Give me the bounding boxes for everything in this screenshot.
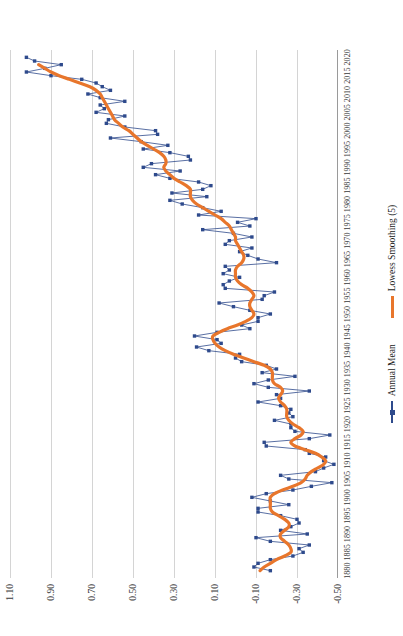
annual-mean-marker xyxy=(256,400,259,403)
x-tick-label: 1990 xyxy=(343,159,352,175)
annual-mean-marker xyxy=(224,243,227,246)
x-tick-label: 1965 xyxy=(343,251,352,267)
annual-mean-marker xyxy=(224,287,227,290)
x-tick-label: 1950 xyxy=(343,306,352,322)
legend-item-lowess: Lowess Smoothing (5) xyxy=(387,205,397,319)
x-tick-label: 2010 xyxy=(343,86,352,102)
annual-mean-marker xyxy=(297,521,300,524)
annual-mean-marker xyxy=(289,426,292,429)
annual-mean-marker xyxy=(25,70,28,73)
x-tick-label: 1960 xyxy=(343,269,352,285)
annual-mean-marker xyxy=(240,360,243,363)
annual-mean-marker xyxy=(209,184,212,187)
lowess-smoothing-line xyxy=(39,65,326,571)
annual-mean-marker xyxy=(252,382,255,385)
annual-mean-marker xyxy=(256,257,259,260)
annual-mean-marker xyxy=(217,301,220,304)
annual-mean-marker xyxy=(219,342,222,345)
legend-item-annual-mean: Annual Mean xyxy=(387,344,397,423)
annual-mean-marker xyxy=(275,367,278,370)
chart-page: 1.100.900.700.500.300.10-0.10-0.30-0.50 … xyxy=(0,0,403,636)
x-tick-label: 1955 xyxy=(343,287,352,303)
annual-mean-marker xyxy=(142,166,145,169)
plot-area: 1.100.900.700.500.300.10-0.10-0.30-0.50 … xyxy=(10,50,338,578)
annual-mean-marker xyxy=(250,496,253,499)
figure: 1.100.900.700.500.300.10-0.10-0.30-0.50 … xyxy=(0,0,403,636)
annual-mean-marker xyxy=(109,136,112,139)
annual-mean-marker xyxy=(267,386,270,389)
x-tick-label: 1935 xyxy=(343,361,352,377)
y-tick-label: 0.30 xyxy=(169,584,179,601)
annual-mean-marker xyxy=(154,173,157,176)
y-tick-label: -0.30 xyxy=(292,584,302,604)
annual-mean-marker xyxy=(170,191,173,194)
annual-mean-marker xyxy=(256,320,259,323)
annual-mean-marker xyxy=(275,393,278,396)
annual-mean-marker xyxy=(197,213,200,216)
annual-mean-marker xyxy=(142,147,145,150)
annual-mean-marker xyxy=(250,246,253,249)
x-tick-label: 1890 xyxy=(343,526,352,542)
legend-swatch-lowess xyxy=(387,296,397,318)
annual-mean-marker xyxy=(269,540,272,543)
annual-mean-marker xyxy=(103,107,106,110)
x-tick-label: 1895 xyxy=(343,507,352,523)
x-tick-label: 1940 xyxy=(343,342,352,358)
annual-mean-marker xyxy=(279,474,282,477)
annual-mean-marker xyxy=(246,254,249,257)
annual-mean-marker xyxy=(256,507,259,510)
y-tick-label: 0.90 xyxy=(46,584,56,601)
annual-mean-marker xyxy=(330,481,333,484)
chart-legend: Annual Mean Lowess Smoothing (5) xyxy=(387,50,397,578)
annual-mean-marker xyxy=(269,312,272,315)
annual-mean-marker xyxy=(222,272,225,275)
annual-mean-marker xyxy=(256,562,259,565)
x-tick-label: 1910 xyxy=(343,452,352,468)
annual-mean-marker xyxy=(332,463,335,466)
annual-mean-marker xyxy=(86,92,89,95)
annual-mean-marker xyxy=(265,444,268,447)
annual-mean-marker xyxy=(105,122,108,125)
annual-mean-marker xyxy=(156,133,159,136)
y-tick-label: 0.10 xyxy=(210,584,220,601)
annual-mean-marker xyxy=(166,144,169,147)
annual-mean-marker xyxy=(291,554,294,557)
annual-mean-marker xyxy=(195,345,198,348)
annual-mean-marker xyxy=(248,327,251,330)
annual-mean-marker xyxy=(80,78,83,81)
x-tick-label: 1945 xyxy=(343,324,352,340)
x-tick-label: 1930 xyxy=(343,379,352,395)
annual-mean-marker xyxy=(201,228,204,231)
x-tick-label: 1920 xyxy=(343,416,352,432)
x-tick-label: 1900 xyxy=(343,489,352,505)
annual-mean-marker xyxy=(94,111,97,114)
annual-mean-marker xyxy=(215,338,218,341)
x-tick-label: 2005 xyxy=(343,104,352,120)
annual-mean-marker xyxy=(308,389,311,392)
x-tick-label: 1985 xyxy=(343,177,352,193)
annual-mean-marker xyxy=(178,169,181,172)
legend-swatch-annual-mean xyxy=(387,401,397,423)
annual-mean-marker xyxy=(273,419,276,422)
annual-mean-marker xyxy=(295,518,298,521)
annual-mean-marker xyxy=(168,151,171,154)
annual-mean-marker xyxy=(193,334,196,337)
legend-line-icon xyxy=(391,296,394,318)
annual-mean-marker xyxy=(291,488,294,491)
annual-mean-marker xyxy=(228,239,231,242)
rotated-figure-container: 1.100.900.700.500.300.10-0.10-0.30-0.50 … xyxy=(0,0,403,636)
x-tick-label: 2015 xyxy=(343,67,352,83)
x-tick-label: 1905 xyxy=(343,471,352,487)
annual-mean-marker xyxy=(228,268,231,271)
annual-mean-marker xyxy=(187,155,190,158)
annual-mean-marker xyxy=(267,378,270,381)
annual-mean-marker xyxy=(189,158,192,161)
annual-mean-marker xyxy=(181,202,184,205)
annual-mean-marker xyxy=(123,114,126,117)
annual-mean-marker xyxy=(154,129,157,132)
annual-mean-marker xyxy=(308,437,311,440)
annual-mean-marker xyxy=(232,305,235,308)
annual-mean-marker xyxy=(238,276,241,279)
y-tick-label: -0.50 xyxy=(333,584,343,604)
annual-mean-marker xyxy=(287,477,290,480)
